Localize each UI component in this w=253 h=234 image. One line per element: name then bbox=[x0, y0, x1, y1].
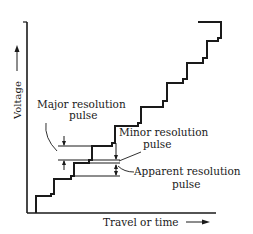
resolution-staircase-diagram: Voltage Major resolution pulse Minor res… bbox=[0, 0, 253, 234]
minor-leader-line bbox=[119, 152, 141, 161]
major-leader-curve bbox=[46, 123, 57, 151]
major-arrow-up-icon bbox=[62, 160, 66, 165]
minor-label-line2: pulse bbox=[143, 138, 171, 150]
x-axis-arrow-icon bbox=[202, 220, 210, 225]
major-arrow-down-icon bbox=[62, 141, 66, 146]
x-axis-label-group: Travel or time bbox=[103, 216, 210, 228]
minor-label-line1: Minor resolution bbox=[119, 126, 209, 138]
apparent-arrow-up-icon bbox=[114, 164, 118, 169]
y-axis-arrow-icon bbox=[15, 45, 20, 52]
y-axis-label: Voltage bbox=[12, 81, 23, 120]
y-axis-label-group: Voltage bbox=[12, 45, 23, 120]
apparent-label-line1: Apparent resolution bbox=[133, 165, 241, 177]
x-axis-label: Travel or time bbox=[103, 216, 179, 228]
apparent-resolution-annotation bbox=[74, 164, 134, 176]
minor-arrow-down-icon bbox=[114, 155, 118, 160]
major-label-line2: pulse bbox=[69, 109, 97, 121]
apparent-label-line2: pulse bbox=[172, 178, 200, 190]
apparent-arrow-down-icon bbox=[114, 171, 118, 176]
apparent-leader-curve bbox=[118, 166, 134, 172]
